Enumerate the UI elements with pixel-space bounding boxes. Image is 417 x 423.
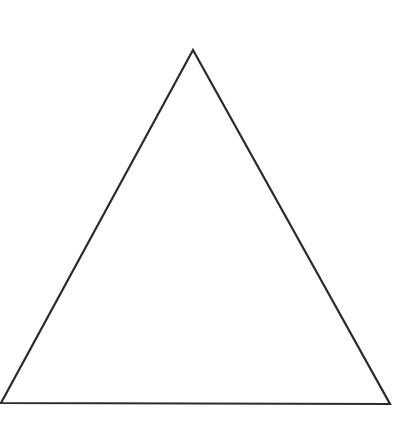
figure-canvas — [0, 0, 417, 423]
triangle-figure — [0, 0, 417, 423]
canvas-background — [0, 0, 417, 423]
